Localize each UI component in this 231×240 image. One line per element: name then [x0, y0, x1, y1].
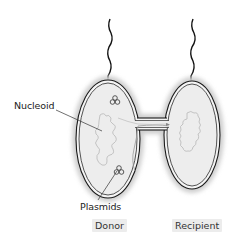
recipient-inner-membrane [167, 84, 217, 186]
plasmids-label: Plasmids [80, 201, 121, 212]
donor-inner-membrane [79, 83, 137, 195]
nucleoid-label: Nucleoid [14, 100, 55, 111]
donor-flagellum [108, 19, 112, 82]
donor-caption: Donor [92, 219, 127, 232]
recipient-caption: Recipient [172, 219, 222, 232]
recipient-flagellum [191, 19, 195, 82]
